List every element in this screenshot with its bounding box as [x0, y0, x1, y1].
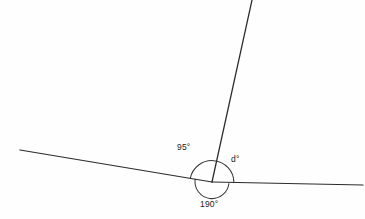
right-ray: [212, 182, 363, 185]
left-ray: [20, 150, 212, 182]
diagram-canvas: 95° d° 190°: [0, 0, 365, 219]
angle-label-190: 190°: [200, 200, 218, 209]
angle-label-d: d°: [231, 155, 240, 164]
angle-label-95: 95°: [177, 143, 190, 152]
angle-diagram-svg: [0, 0, 365, 219]
